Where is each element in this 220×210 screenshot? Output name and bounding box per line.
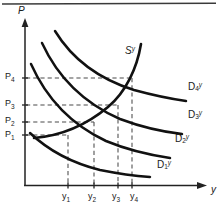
tick-label-p2-sub: 2	[11, 120, 15, 127]
tick-label-y4-sub: 4	[135, 196, 139, 203]
tick-label-p3: P3	[5, 99, 15, 110]
tick-label-p3-sub: 3	[11, 103, 15, 110]
tick-label-y1: y1	[62, 192, 70, 203]
supply-demand-chart	[0, 0, 220, 210]
axes-group	[22, 18, 207, 189]
tick-label-y3-sub: 3	[117, 196, 121, 203]
tick-label-p4: P4	[5, 72, 15, 83]
demand-curves-group	[30, 31, 186, 177]
tick-label-p1: P1	[5, 130, 15, 141]
tick-label-y1-sub: 1	[67, 196, 71, 203]
demand-curve-label-1: D1y	[157, 160, 171, 171]
demand-curve-3	[42, 43, 182, 134]
demand-curve-label-1-sup: y	[168, 159, 171, 166]
y-axis-arrowhead	[22, 18, 29, 27]
demand-curve-label-3-sup: y	[199, 109, 202, 116]
supply-curve-label-sup: y	[132, 45, 135, 52]
demand-curve-label-2-sup: y	[186, 133, 189, 140]
tick-label-p2: P2	[5, 116, 15, 127]
demand-curve-label-4: D4y	[188, 82, 202, 93]
demand-curve-label-3: D3y	[188, 110, 202, 121]
tick-label-y3: y3	[112, 192, 120, 203]
tick-label-p1-sub: 1	[11, 134, 15, 141]
tick-label-y4: y4	[130, 192, 138, 203]
y-axis-title: P	[18, 6, 25, 16]
demand-curve-label-2: D2y	[175, 134, 189, 145]
tick-label-y2: y2	[88, 192, 96, 203]
supply-curve-label: Sy	[125, 46, 135, 56]
top-divider-rule	[2, 3, 216, 4]
tick-label-y2-sub: 2	[93, 196, 97, 203]
tick-label-p4-sub: 4	[11, 76, 15, 83]
x-axis-title: y	[211, 185, 216, 195]
x-axis-arrowhead	[197, 182, 207, 189]
demand-curve-label-4-sup: y	[199, 81, 202, 88]
